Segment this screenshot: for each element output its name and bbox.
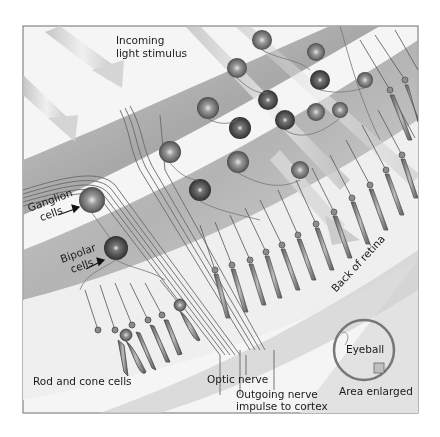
area-enlarged-marker [374, 363, 384, 373]
label-area-enlarged: Area enlarged [339, 385, 413, 397]
label-optic-nerve: Optic nerve [207, 373, 268, 385]
label-outgoing-impulse: Outgoing nerve impulse to cortex [236, 388, 328, 412]
retina-diagram: Incoming light stimulus Ganglion cells B… [0, 0, 440, 437]
label-rod-cone-cells: Rod and cone cells [33, 375, 132, 387]
label-eyeball: Eyeball [346, 343, 384, 355]
